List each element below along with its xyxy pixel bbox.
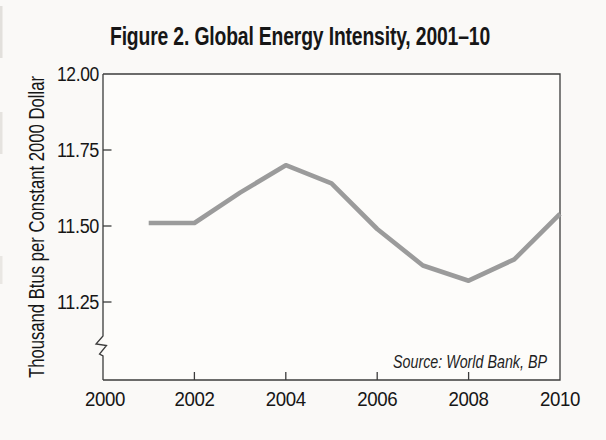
y-tick-label: 11.25: [57, 291, 99, 313]
y-axis-label: Thousand Btus per Constant 2000 Dollar: [24, 76, 49, 378]
x-tick-label: 2006: [357, 388, 397, 410]
chart-layer: 12.0011.7511.5011.2520002002200420062008…: [0, 6, 580, 410]
figure-canvas: 12.0011.7511.5011.2520002002200420062008…: [0, 0, 606, 440]
plot-area: [103, 74, 560, 380]
scan-artifact: [0, 256, 3, 284]
y-tick-label: 11.50: [57, 215, 99, 237]
source-note: Source: World Bank, BP: [393, 351, 547, 372]
scan-artifact: [0, 112, 3, 154]
x-tick-label: 2008: [449, 388, 489, 410]
y-tick-label: 11.75: [57, 139, 99, 161]
scan-artifact: [0, 6, 3, 58]
y-tick-label: 12.00: [57, 63, 99, 85]
x-tick-label: 2002: [174, 388, 214, 410]
x-tick-label: 2000: [85, 388, 125, 410]
x-tick-label: 2010: [540, 388, 580, 410]
figure-title: Figure 2. Global Energy Intensity, 2001–…: [110, 21, 490, 51]
x-tick-label: 2004: [266, 388, 306, 410]
figure-container: 12.0011.7511.5011.2520002002200420062008…: [0, 0, 606, 440]
